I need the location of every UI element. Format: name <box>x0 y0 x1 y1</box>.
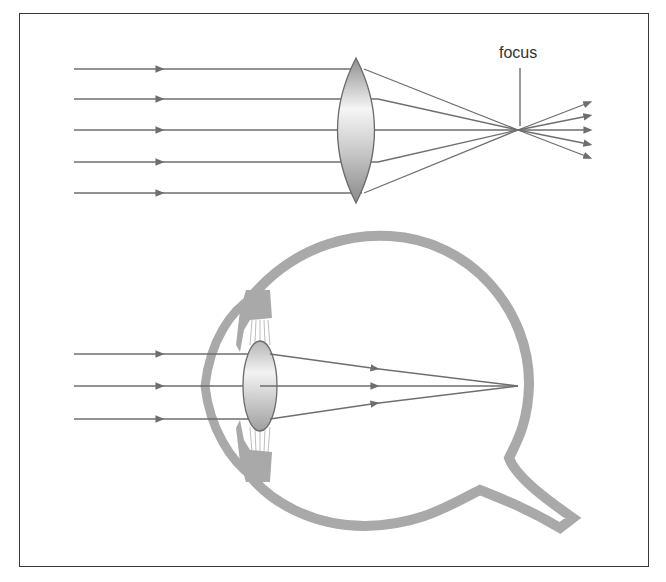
incoming-rays <box>74 69 518 193</box>
top-panel <box>74 58 588 203</box>
eye-diagram <box>74 236 573 528</box>
ciliary-body-upper <box>236 290 272 352</box>
focus-label: focus <box>499 44 537 62</box>
refracted-rays <box>364 69 518 193</box>
eye-wall <box>252 236 573 528</box>
convex-lens <box>338 58 375 203</box>
optics-diagram <box>0 0 666 582</box>
diverging-rays <box>518 103 588 157</box>
eye-refracted-rays <box>260 354 518 419</box>
eye-incoming-rays <box>74 354 270 419</box>
